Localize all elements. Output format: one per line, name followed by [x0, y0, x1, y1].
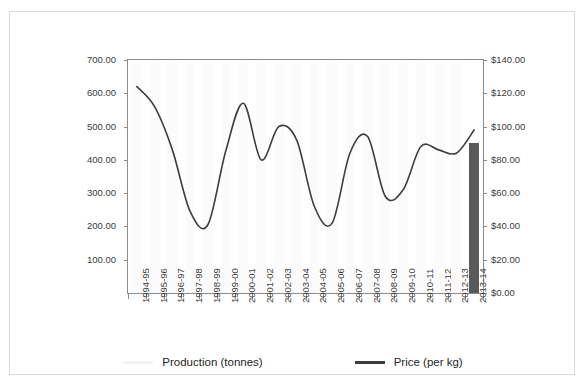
price-line-path: [137, 87, 474, 229]
left-axis-tick-label: 300.00: [87, 188, 116, 198]
left-axis-tick-label: 100.00: [87, 255, 116, 265]
right-axis-tick-label: $80.00: [491, 155, 520, 165]
plot-wrapper: 100.00200.00300.00400.00500.00600.00700.…: [10, 12, 574, 374]
right-axis-tick: [483, 260, 487, 261]
left-axis-tick-label: 400.00: [87, 155, 116, 165]
right-axis-tick: [483, 60, 487, 61]
x-axis-tick: [128, 294, 129, 299]
legend-line-icon-price: [355, 361, 385, 364]
right-axis-tick-label: $20.00: [491, 255, 520, 265]
chart-page: 100.00200.00300.00400.00500.00600.00700.…: [0, 0, 586, 386]
right-axis-tick: [483, 127, 487, 128]
plot-area: [128, 60, 483, 293]
legend-label-price: Price (per kg): [394, 356, 463, 368]
right-axis-tick-label: $140.00: [491, 55, 525, 65]
right-axis-tick-label: $40.00: [491, 221, 520, 231]
legend-line-icon-production: [123, 361, 153, 364]
left-axis-tick-label: 500.00: [87, 122, 116, 132]
chart-legend: Production (tonnes) Price (per kg): [10, 352, 576, 372]
right-axis-tick-label: $100.00: [491, 122, 525, 132]
legend-item-production[interactable]: Production (tonnes): [123, 356, 262, 368]
right-axis-tick: [483, 193, 487, 194]
left-axis-tick-label: 200.00: [87, 221, 116, 231]
right-axis-tick: [483, 160, 487, 161]
right-axis-tick-label: $0.00: [491, 288, 515, 298]
right-axis-tick-label: $60.00: [491, 188, 520, 198]
legend-item-price[interactable]: Price (per kg): [355, 356, 463, 368]
right-axis-line: [483, 59, 484, 294]
left-axis-tick-label: 600.00: [87, 88, 116, 98]
legend-label-production: Production (tonnes): [162, 356, 262, 368]
right-axis-tick-label: $120.00: [491, 88, 525, 98]
left-axis-tick-label: 700.00: [87, 55, 116, 65]
chart-frame: 100.00200.00300.00400.00500.00600.00700.…: [9, 11, 575, 375]
right-axis-tick: [483, 226, 487, 227]
right-axis-tick: [483, 93, 487, 94]
price-line-series: [128, 60, 483, 293]
